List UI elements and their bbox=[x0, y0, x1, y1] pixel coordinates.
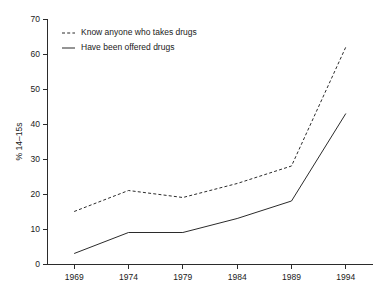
legend-label-1: Have been offered drugs bbox=[81, 42, 174, 52]
x-tick-label: 1984 bbox=[228, 272, 247, 282]
y-axis-title: % 14–15s bbox=[14, 123, 24, 161]
series-line-0 bbox=[74, 47, 346, 212]
series-lines bbox=[74, 47, 346, 254]
y-tick-label: 10 bbox=[31, 224, 41, 234]
y-tick-label: 20 bbox=[31, 189, 41, 199]
line-chart: 010203040506070 196919741979198419891994… bbox=[0, 0, 387, 301]
series-line-1 bbox=[74, 114, 346, 254]
x-tick-label: 1969 bbox=[65, 272, 84, 282]
x-tick-label: 1979 bbox=[173, 272, 192, 282]
x-tick-label: 1974 bbox=[119, 272, 138, 282]
y-tick-label: 50 bbox=[31, 84, 41, 94]
y-tick-label: 70 bbox=[31, 14, 41, 24]
chart-container: 010203040506070 196919741979198419891994… bbox=[0, 0, 387, 301]
chart-legend: Know anyone who takes drugsHave been off… bbox=[62, 27, 197, 52]
y-tick-label: 0 bbox=[35, 259, 40, 269]
y-tick-label: 40 bbox=[31, 119, 41, 129]
legend-label-0: Know anyone who takes drugs bbox=[81, 27, 197, 37]
y-tick-label: 60 bbox=[31, 49, 41, 59]
x-tick-label: 1994 bbox=[336, 272, 355, 282]
y-tick-label: 30 bbox=[31, 154, 41, 164]
y-axis: 010203040506070 bbox=[31, 14, 47, 269]
x-axis: 196919741979198419891994 bbox=[47, 264, 373, 282]
x-tick-label: 1989 bbox=[282, 272, 301, 282]
